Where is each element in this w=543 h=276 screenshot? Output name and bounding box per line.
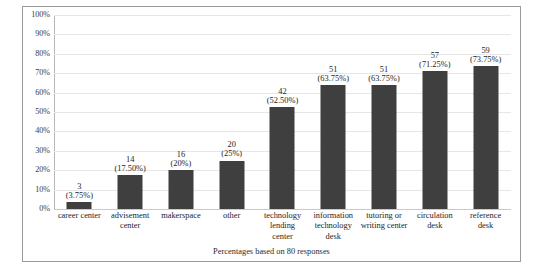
bar-data-label: 59(73.75%) — [446, 46, 526, 64]
x-category-label: referencedesk — [457, 211, 515, 232]
bar-group: 42(52.50%) — [257, 15, 308, 209]
bar[interactable] — [473, 66, 498, 209]
x-category-label-line: desk — [406, 221, 464, 231]
x-category-label-line: center — [101, 221, 159, 231]
bar-group: 16(20%) — [156, 15, 207, 209]
bar[interactable] — [422, 71, 447, 209]
x-category-label-line: reference — [457, 211, 515, 221]
x-category-label: advisementcenter — [101, 211, 159, 232]
y-tick-label: 0% — [16, 205, 50, 213]
y-tick-label: 90% — [16, 30, 50, 38]
bar-group: 59(73.75%) — [460, 15, 511, 209]
y-tick-label: 40% — [16, 127, 50, 135]
y-tick-label: 100% — [16, 11, 50, 19]
x-category-label-line: writing center — [355, 221, 413, 231]
x-category-label: informationtechnologydesk — [304, 211, 362, 242]
x-category-label-line: other — [203, 211, 261, 221]
x-category-label: circulationdesk — [406, 211, 464, 232]
x-category-label-line: circulation — [406, 211, 464, 221]
bar-group: 57(71.25%) — [409, 15, 460, 209]
x-category-label-line: makerspace — [152, 211, 210, 221]
y-axis-tick-labels: 0%10%20%30%40%50%60%70%80%90%100% — [23, 15, 50, 209]
bar[interactable] — [118, 175, 143, 209]
bar[interactable] — [321, 85, 346, 209]
x-category-label-line: technology — [254, 211, 312, 221]
x-category-label-line: desk — [457, 221, 515, 231]
x-category-label-line: technology — [304, 221, 362, 231]
chart-caption: Percentages based on 80 responses — [23, 247, 520, 256]
bar[interactable] — [372, 85, 397, 209]
y-tick-label: 20% — [16, 166, 50, 174]
gridline-0 — [54, 209, 511, 210]
x-category-label: tutoring orwriting center — [355, 211, 413, 232]
x-category-label: other — [203, 211, 261, 221]
bar[interactable] — [67, 202, 92, 209]
y-tick-label: 60% — [16, 88, 50, 96]
x-axis-tick-labels: career centeradvisementcentermakerspaceo… — [54, 211, 511, 251]
x-category-label-line: desk — [304, 232, 362, 242]
plot-area: 3(3.75%)14(17.50%)16(20%)20(25%)42(52.50… — [54, 15, 511, 209]
x-category-label-line: tutoring or — [355, 211, 413, 221]
x-category-label-line: advisement — [101, 211, 159, 221]
bar-group: 51(63.75%) — [359, 15, 410, 209]
bar[interactable] — [219, 161, 244, 210]
x-category-label-line: center — [254, 232, 312, 242]
bar-group: 14(17.50%) — [105, 15, 156, 209]
x-category-label: makerspace — [152, 211, 210, 221]
x-category-label-line: career center — [50, 211, 108, 221]
x-category-label-line: information — [304, 211, 362, 221]
chart-figure: 0%10%20%30%40%50%60%70%80%90%100% 3(3.75… — [22, 6, 521, 262]
x-category-label: career center — [50, 211, 108, 221]
x-category-label-line: lending — [254, 221, 312, 231]
y-tick-label: 80% — [16, 50, 50, 58]
bar[interactable] — [270, 107, 295, 209]
bar-count-value: 59 — [446, 46, 526, 55]
x-category-label: technologylendingcenter — [254, 211, 312, 242]
y-tick-label: 30% — [16, 147, 50, 155]
bar-group: 3(3.75%) — [54, 15, 105, 209]
y-tick-label: 50% — [16, 108, 50, 116]
bar-group: 20(25%) — [206, 15, 257, 209]
y-tick-label: 70% — [16, 69, 50, 77]
bar[interactable] — [168, 170, 193, 209]
bar-group: 51(63.75%) — [308, 15, 359, 209]
bar-percent-value: (73.75%) — [446, 55, 526, 64]
